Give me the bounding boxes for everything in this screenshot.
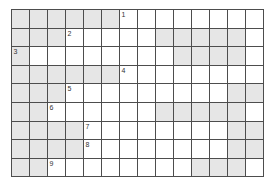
crossword-cell-shaded[interactable] (210, 102, 228, 121)
crossword-cell[interactable] (66, 102, 84, 121)
crossword-cell[interactable] (246, 158, 264, 177)
crossword-cell[interactable] (102, 140, 120, 159)
crossword-cell-shaded[interactable] (12, 10, 30, 29)
crossword-cell-shaded[interactable] (174, 102, 192, 121)
crossword-cell-shaded[interactable] (66, 10, 84, 29)
crossword-cell-shaded[interactable] (246, 84, 264, 103)
crossword-cell[interactable] (246, 10, 264, 29)
crossword-cell[interactable] (138, 102, 156, 121)
crossword-cell[interactable] (120, 140, 138, 159)
crossword-cell[interactable] (228, 10, 246, 29)
crossword-cell-shaded[interactable] (48, 84, 66, 103)
crossword-cell[interactable] (210, 84, 228, 103)
crossword-cell[interactable] (30, 47, 48, 66)
crossword-cell-shaded[interactable] (228, 28, 246, 47)
crossword-cell[interactable] (138, 10, 156, 29)
crossword-cell[interactable] (246, 102, 264, 121)
crossword-cell[interactable] (156, 65, 174, 84)
crossword-cell[interactable] (84, 102, 102, 121)
crossword-cell[interactable] (156, 47, 174, 66)
crossword-cell-shaded[interactable] (12, 84, 30, 103)
crossword-cell-shaded[interactable] (228, 102, 246, 121)
crossword-cell[interactable] (138, 28, 156, 47)
crossword-cell-shaded[interactable] (174, 47, 192, 66)
crossword-cell-shaded[interactable] (210, 28, 228, 47)
crossword-cell-shaded[interactable] (30, 102, 48, 121)
crossword-cell[interactable] (156, 121, 174, 140)
crossword-cell[interactable] (84, 47, 102, 66)
crossword-cell-shaded[interactable] (30, 84, 48, 103)
crossword-cell[interactable] (228, 65, 246, 84)
crossword-cell[interactable] (156, 140, 174, 159)
crossword-cell-shaded[interactable] (66, 140, 84, 159)
crossword-cell[interactable] (138, 65, 156, 84)
crossword-cell-shaded[interactable] (192, 28, 210, 47)
crossword-cell-shaded[interactable] (48, 65, 66, 84)
crossword-cell[interactable] (84, 28, 102, 47)
crossword-cell-shaded[interactable] (228, 47, 246, 66)
crossword-cell-shaded[interactable] (30, 121, 48, 140)
crossword-cell-shaded[interactable] (228, 84, 246, 103)
crossword-cell[interactable] (84, 84, 102, 103)
crossword-cell[interactable] (156, 84, 174, 103)
crossword-cell[interactable]: 4 (120, 65, 138, 84)
crossword-cell[interactable] (210, 121, 228, 140)
crossword-cell[interactable] (120, 28, 138, 47)
crossword-cell[interactable] (174, 65, 192, 84)
crossword-cell-shaded[interactable] (210, 47, 228, 66)
crossword-cell-shaded[interactable] (12, 65, 30, 84)
crossword-cell-shaded[interactable] (12, 158, 30, 177)
crossword-cell-shaded[interactable] (210, 158, 228, 177)
crossword-cell-shaded[interactable] (30, 10, 48, 29)
crossword-cell-shaded[interactable] (66, 65, 84, 84)
crossword-cell-shaded[interactable] (84, 65, 102, 84)
crossword-cell[interactable] (192, 84, 210, 103)
crossword-cell[interactable]: 5 (66, 84, 84, 103)
crossword-cell[interactable] (120, 121, 138, 140)
crossword-cell[interactable] (174, 84, 192, 103)
crossword-cell[interactable] (66, 158, 84, 177)
crossword-cell[interactable] (138, 121, 156, 140)
crossword-cell[interactable]: 6 (48, 102, 66, 121)
crossword-cell[interactable] (192, 10, 210, 29)
crossword-cell[interactable] (102, 28, 120, 47)
crossword-cell[interactable] (102, 158, 120, 177)
crossword-cell[interactable] (156, 158, 174, 177)
crossword-cell-shaded[interactable] (246, 140, 264, 159)
crossword-cell-shaded[interactable] (102, 65, 120, 84)
crossword-cell[interactable]: 9 (48, 158, 66, 177)
crossword-cell[interactable] (138, 47, 156, 66)
crossword-cell[interactable] (102, 84, 120, 103)
crossword-cell[interactable] (210, 65, 228, 84)
crossword-cell[interactable] (48, 47, 66, 66)
crossword-cell[interactable] (138, 140, 156, 159)
crossword-cell-shaded[interactable] (102, 10, 120, 29)
crossword-cell-shaded[interactable] (12, 140, 30, 159)
crossword-cell-shaded[interactable] (12, 102, 30, 121)
crossword-cell-shaded[interactable] (12, 28, 30, 47)
crossword-cell[interactable] (138, 84, 156, 103)
crossword-cell-shaded[interactable] (66, 121, 84, 140)
crossword-cell[interactable] (66, 47, 84, 66)
crossword-cell-shaded[interactable] (174, 28, 192, 47)
crossword-cell-shaded[interactable] (30, 158, 48, 177)
crossword-cell[interactable] (120, 158, 138, 177)
crossword-cell[interactable] (192, 121, 210, 140)
crossword-cell[interactable] (120, 102, 138, 121)
crossword-cell-shaded[interactable] (156, 28, 174, 47)
crossword-cell[interactable] (210, 10, 228, 29)
crossword-cell-shaded[interactable] (228, 140, 246, 159)
crossword-cell[interactable] (138, 158, 156, 177)
crossword-cell-shaded[interactable] (192, 102, 210, 121)
crossword-cell-shaded[interactable]: 3 (12, 47, 30, 66)
crossword-cell-shaded[interactable] (30, 28, 48, 47)
crossword-cell-shaded[interactable] (228, 121, 246, 140)
crossword-cell[interactable] (156, 10, 174, 29)
crossword-cell[interactable] (246, 65, 264, 84)
crossword-cell[interactable] (120, 47, 138, 66)
crossword-cell-shaded[interactable] (156, 102, 174, 121)
crossword-cell-shaded[interactable] (48, 28, 66, 47)
crossword-cell[interactable] (174, 140, 192, 159)
crossword-cell[interactable] (192, 140, 210, 159)
crossword-cell[interactable]: 1 (120, 10, 138, 29)
